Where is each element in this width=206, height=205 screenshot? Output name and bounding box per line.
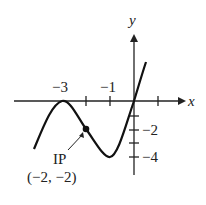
y-tick-label-m4: −4 [142, 150, 158, 165]
ip-coordinates: (−2, −2) [27, 170, 76, 185]
ip-label: IP [53, 152, 66, 167]
function-graph: y x −3 −1 −2 −4 IP (−2, −2) [0, 0, 206, 205]
x-arrow-icon [178, 97, 186, 105]
y-axis-label: y [129, 13, 136, 28]
inflection-point [83, 126, 90, 133]
x-tick-label-m3: −3 [52, 80, 68, 95]
y-arrow-icon [130, 34, 138, 42]
x-tick-label-m1: −1 [100, 80, 116, 95]
x-axis-label: x [188, 94, 195, 109]
y-tick-label-m2: −2 [142, 123, 158, 138]
